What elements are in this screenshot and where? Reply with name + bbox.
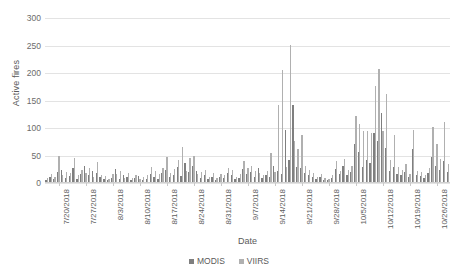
- bar-group: [65, 172, 68, 182]
- bar-group: [169, 173, 172, 182]
- x-axis-tick-mark: [248, 183, 249, 186]
- bar-group: [161, 168, 164, 182]
- bar-group: [119, 171, 122, 182]
- bar-viirs: [209, 177, 210, 183]
- bar-group: [377, 69, 380, 182]
- bar-group: [61, 170, 64, 182]
- bar-group: [366, 131, 369, 182]
- bar-group: [49, 174, 52, 182]
- bar-group: [315, 177, 318, 183]
- chart-legend: MODIS VIIRS: [0, 256, 458, 266]
- x-axis-tick-label: 9/28/2018: [332, 189, 341, 225]
- bar-group: [196, 171, 199, 182]
- x-axis-tick-label: 8/10/2018: [143, 189, 152, 225]
- bar-viirs: [425, 175, 426, 182]
- bar-viirs: [124, 178, 125, 182]
- bar-group: [350, 166, 353, 183]
- x-axis-tick-mark: [167, 183, 168, 186]
- bar-viirs: [328, 179, 329, 182]
- bar-viirs: [386, 94, 387, 182]
- bar-viirs: [151, 167, 152, 182]
- bar-viirs: [409, 174, 410, 182]
- x-axis-tick-label: 7/27/2018: [89, 189, 98, 225]
- x-axis-tick-mark: [383, 183, 384, 186]
- bar-viirs: [297, 149, 298, 182]
- bar-group: [211, 173, 214, 182]
- bar-group: [339, 171, 342, 182]
- bar-viirs: [236, 177, 237, 182]
- bar-group: [69, 173, 72, 182]
- bar-group: [215, 178, 218, 182]
- bar-viirs: [186, 171, 187, 182]
- x-axis-tick-mark: [329, 183, 330, 186]
- bar-viirs: [62, 175, 63, 182]
- bar-viirs: [105, 176, 106, 182]
- bar-group: [308, 170, 311, 182]
- bar-viirs: [174, 169, 175, 182]
- bar-group: [373, 86, 376, 182]
- bar-viirs: [348, 170, 349, 182]
- bar-group: [416, 171, 419, 182]
- bar-group: [231, 170, 234, 182]
- bar-viirs: [267, 171, 268, 182]
- bar-viirs: [193, 156, 194, 182]
- x-axis-tick-mark: [302, 183, 303, 186]
- bar-viirs: [224, 175, 225, 182]
- bar-viirs: [355, 116, 356, 182]
- bar-group: [431, 127, 434, 182]
- bar-viirs: [321, 174, 322, 182]
- bar-viirs: [324, 178, 325, 182]
- bar-viirs: [378, 69, 379, 182]
- bar-viirs: [259, 173, 260, 182]
- bar-group: [319, 174, 322, 182]
- bar-viirs: [255, 171, 256, 182]
- bar-group: [331, 175, 334, 182]
- bar-group: [269, 153, 272, 182]
- x-axis-tick-mark: [194, 183, 195, 186]
- bar-group: [130, 178, 133, 182]
- bar-group: [335, 161, 338, 182]
- bar-viirs: [228, 168, 229, 182]
- bar-group: [146, 175, 149, 182]
- bar-group: [72, 158, 75, 182]
- bar-group: [227, 168, 230, 182]
- y-axis-tick-label: 250: [27, 41, 41, 51]
- bar-viirs: [51, 174, 52, 182]
- bar-viirs: [351, 166, 352, 183]
- bar-viirs: [220, 174, 221, 182]
- bar-viirs: [189, 158, 190, 182]
- x-axis-tick-label: 10/5/2018: [359, 189, 368, 225]
- bar-viirs: [101, 175, 102, 182]
- active-fires-bar-chart: Active fires 050100150200250300 7/20/201…: [0, 0, 458, 278]
- bar-group: [142, 177, 145, 182]
- bar-group: [192, 156, 195, 182]
- bar-group: [204, 170, 207, 182]
- x-axis-tick-mark: [410, 183, 411, 186]
- y-axis-tick-label: 100: [27, 123, 41, 133]
- y-axis-tick-label: 50: [32, 151, 41, 161]
- bar-group: [258, 168, 261, 182]
- bar-group: [165, 157, 168, 182]
- bar-viirs: [359, 124, 360, 182]
- bar-viirs: [112, 174, 113, 182]
- x-axis-tick-label: 9/21/2018: [305, 189, 314, 225]
- bar-group: [292, 105, 295, 182]
- bar-group: [223, 175, 226, 182]
- bar-viirs: [74, 158, 75, 182]
- bar-viirs: [58, 156, 59, 182]
- bar-group: [107, 179, 110, 182]
- bar-viirs: [178, 160, 179, 182]
- bar-group: [138, 176, 141, 182]
- bar-group: [400, 170, 403, 182]
- bar-group: [296, 149, 299, 182]
- bar-viirs: [216, 178, 217, 182]
- x-axis-title: Date: [45, 236, 450, 246]
- bar-group: [362, 131, 365, 182]
- bar-viirs: [429, 168, 430, 182]
- bar-group: [80, 170, 83, 182]
- bar-group: [354, 116, 357, 182]
- x-axis-tick-mark: [113, 183, 114, 186]
- bar-group: [115, 169, 118, 182]
- bar-group: [277, 105, 280, 182]
- bar-viirs: [290, 45, 291, 183]
